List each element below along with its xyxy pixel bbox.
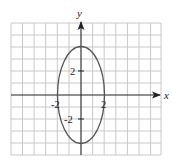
tick-label-x-neg: -2: [51, 99, 60, 110]
ellipse-graph: y x 2 -2 -2 2: [0, 0, 172, 163]
axes: [11, 22, 160, 155]
x-axis-label: x: [163, 89, 169, 101]
tick-label-x-pos: 2: [101, 99, 106, 110]
y-axis-label: y: [76, 7, 82, 19]
tick-label-y-pos: 2: [70, 66, 75, 77]
tick-label-y-neg: -2: [64, 114, 73, 125]
grid: [11, 23, 161, 155]
